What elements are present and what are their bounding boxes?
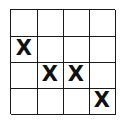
grid-cell-r2-c1: X [37,62,64,89]
grid-cell-r0-c3 [89,10,116,37]
grid-cell-r3-c0 [11,88,38,115]
puzzle-grid: X X X X [10,9,115,114]
grid-cell-r1-c1 [37,36,64,63]
grid-cell-r2-c2: X [63,62,90,89]
grid-cell-r0-c1 [37,10,64,37]
grid-cell-r1-c0: X [11,36,38,63]
grid-cell-r0-c2 [63,10,90,37]
grid-cell-r3-c2 [63,88,90,115]
grid-cell-r0-c0 [11,10,38,37]
grid-cell-r3-c1 [37,88,64,115]
grid-cell-r1-c3 [89,36,116,63]
grid-cell-r1-c2 [63,36,90,63]
grid-cell-r3-c3: X [89,88,116,115]
grid-cell-r2-c0 [11,62,38,89]
grid-cell-r2-c3 [89,62,116,89]
